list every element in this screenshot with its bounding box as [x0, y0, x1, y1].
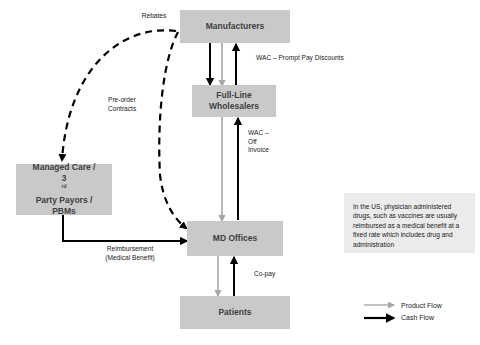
edge-label-wac-prompt-pay-discounts: WAC – Prompt Pay Discounts	[256, 54, 386, 63]
product-flow-arrow-icon	[362, 300, 396, 310]
node-wholesalers-label-line2: Wholesalers	[209, 101, 259, 112]
node-payors-label-line2: 3rd Party Payors /	[33, 173, 96, 206]
node-manufacturers[interactable]: Manufacturers	[180, 10, 290, 43]
node-wholesalers-label-line1: Full-Line	[209, 90, 259, 101]
node-md-offices[interactable]: MD Offices	[187, 221, 283, 256]
diagram-canvas: Manufacturers Full-Line Wholesalers Mana…	[0, 0, 480, 345]
node-payors-ordinal-suffix: rd	[61, 183, 66, 189]
callout-note: In the US, physician administered drugs,…	[344, 193, 475, 253]
legend-label-product-flow: Product Flow	[401, 302, 442, 309]
edge-manufacturers-to-md-preorder	[159, 32, 186, 228]
cash-flow-arrow-icon	[362, 312, 396, 322]
legend-item-product-flow: Product Flow	[362, 299, 472, 311]
edge-label-copay: Co-pay	[254, 270, 298, 279]
edge-label-rebates: Rebates	[124, 12, 184, 21]
edge-label-wac-off-invoice: WAC – Off Invoice	[248, 129, 304, 155]
node-payors-label-line1: Managed Care /	[33, 162, 96, 173]
edge-label-preorder-contracts: Pre-order Contracts	[108, 96, 160, 113]
edge-label-reimbursement: Reimbursement (Medical Benefit)	[76, 245, 184, 262]
node-md-offices-label: MD Offices	[213, 233, 257, 244]
node-full-line-wholesalers[interactable]: Full-Line Wholesalers	[192, 85, 276, 117]
node-patients-label: Patients	[218, 307, 251, 318]
legend-item-cash-flow: Cash Flow	[362, 311, 472, 323]
node-payors-label-line3: PBMs	[33, 206, 96, 217]
legend: Product Flow Cash Flow	[362, 299, 472, 323]
node-manufacturers-label: Manufacturers	[206, 21, 265, 32]
legend-label-cash-flow: Cash Flow	[401, 314, 434, 321]
node-patients[interactable]: Patients	[180, 296, 290, 329]
edge-payors-to-md-reimbursement	[63, 215, 187, 241]
node-managed-care-payors[interactable]: Managed Care / 3rd Party Payors / PBMs	[16, 164, 112, 215]
